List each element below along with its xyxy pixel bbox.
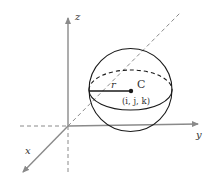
center-coordinates-label: (i, j, k) bbox=[122, 96, 150, 106]
sphere-diagram: z y x r C (i, j, k) bbox=[0, 0, 212, 183]
radius-label: r bbox=[111, 79, 117, 90]
diagonal-dashed-line bbox=[68, 13, 180, 126]
center-label: C bbox=[137, 78, 145, 91]
z-axis-label: z bbox=[74, 11, 81, 22]
center-point bbox=[129, 89, 133, 93]
y-axis bbox=[68, 124, 198, 126]
y-axis-label: y bbox=[195, 129, 202, 140]
equator-back-dashed bbox=[89, 70, 172, 90]
x-axis-label: x bbox=[25, 145, 31, 156]
